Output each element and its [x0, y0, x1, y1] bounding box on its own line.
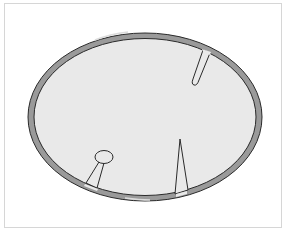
- cell-diagram: [0, 0, 287, 231]
- cell-interior: [34, 39, 256, 196]
